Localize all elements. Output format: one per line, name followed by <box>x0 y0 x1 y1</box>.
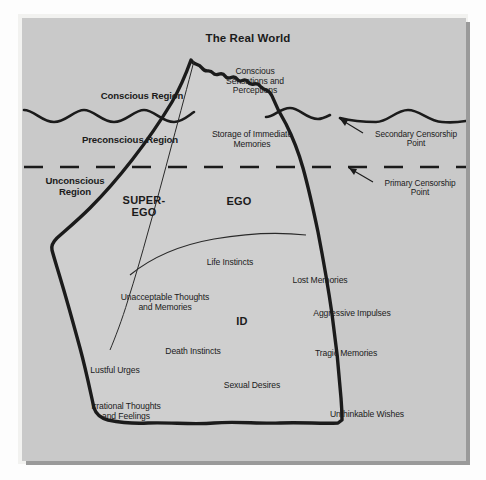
id-item-tragic-memories: Tragic Memories <box>315 349 377 359</box>
id-item-irrational-thoughts: Irrational Thoughts and Feelings <box>91 402 161 421</box>
annotation-secondary-censorship: Secondary Censorship Point <box>375 130 457 149</box>
page-title: The Real World <box>206 32 291 45</box>
water-line-right <box>340 110 466 122</box>
id-item-aggressive-impulses: Aggressive Impulses <box>313 309 390 319</box>
region-label-conscious: Conscious Region <box>101 91 184 102</box>
region-label-unconscious: Unconscious Region <box>30 176 120 197</box>
figure-root: The Real World Conscious Region Preconsc… <box>0 0 486 480</box>
structure-label-superego: SUPER- EGO <box>123 194 166 219</box>
id-item-unthinkable-wishes: Unthinkable Wishes <box>330 410 404 420</box>
id-item-sexual-desires: Sexual Desires <box>224 381 280 391</box>
preconscious-contents-label: Storage of Immediate Memories <box>212 130 292 149</box>
id-item-lustful-urges: Lustful Urges <box>90 366 139 376</box>
figure-plate: The Real World Conscious Region Preconsc… <box>22 18 466 461</box>
id-item-death-instincts: Death Instincts <box>165 347 220 357</box>
annotation-primary-censorship: Primary Censorship Point <box>384 179 455 198</box>
structure-label-ego: EGO <box>226 195 251 207</box>
id-item-unacceptable-thoughts: Unacceptable Thoughts and Memories <box>121 293 210 312</box>
id-item-life-instincts: Life Instincts <box>207 258 253 268</box>
primary-censorship-arrow <box>349 168 373 182</box>
region-label-preconscious: Preconscious Region <box>82 135 178 146</box>
conscious-contents-label: Conscious Sensations and Perceptions <box>226 67 284 96</box>
id-item-lost-memories: Lost Memories <box>292 276 347 286</box>
structure-label-id: ID <box>236 315 247 327</box>
